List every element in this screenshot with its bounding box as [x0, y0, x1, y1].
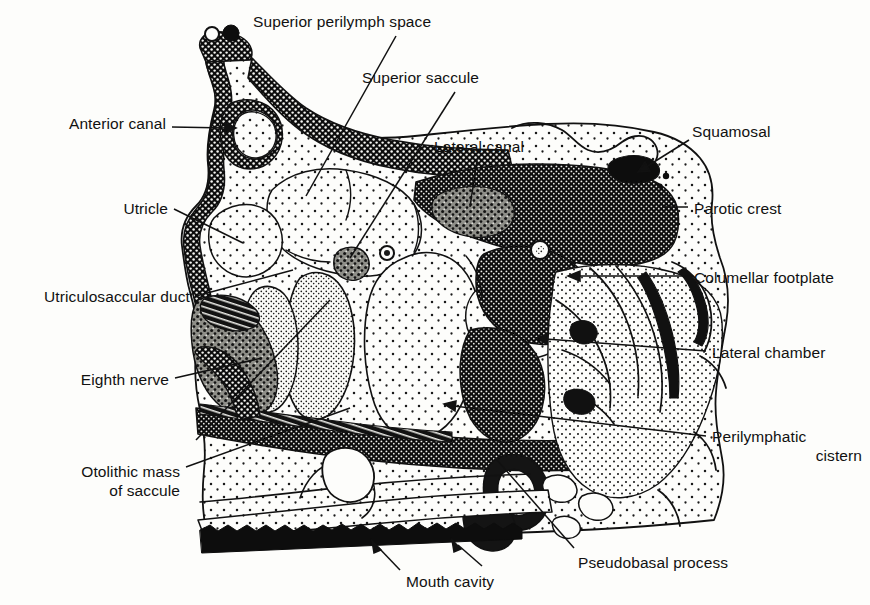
label-perilymphatic-cistern: Perilymphaticcistern — [712, 427, 862, 465]
squamosal-fleck-1 — [663, 173, 669, 179]
label-superior-saccule: Superior saccule — [362, 68, 479, 87]
label-pseudobasal-process: Pseudobasal process — [578, 553, 728, 572]
label-lateral-chamber: Lateral chamber — [712, 343, 826, 362]
squamosal-bone — [608, 156, 660, 184]
squamosal-fleck-2 — [657, 183, 662, 188]
crest-foramen-2-core — [384, 250, 390, 256]
leader-anterior-canal — [172, 127, 228, 128]
label-utriculosaccular-duct: Utriculosaccular duct — [0, 287, 190, 306]
utricle-chamber — [209, 204, 283, 276]
crest-foramen-1-core — [536, 246, 544, 254]
label-superior-perilymph-space: Superior perilymph space — [253, 12, 431, 31]
label-eighth-nerve: Eighth nerve — [0, 370, 169, 389]
label-mouth-cavity: Mouth cavity — [406, 572, 494, 591]
label-anterior-canal: Anterior canal — [0, 114, 166, 133]
label-columellar-footplate: Columellar footplate — [694, 268, 834, 287]
small-ring-icon — [205, 27, 219, 41]
label-utricle: Utricle — [0, 199, 168, 218]
submandibular-ossicle — [322, 448, 374, 502]
anterior-canal-lumen — [234, 112, 276, 158]
figure-canvas: Superior perilymph space Superior saccul… — [0, 0, 870, 605]
solid-dot-icon — [223, 25, 239, 41]
superior-saccule-neck — [334, 247, 370, 280]
label-parotic-crest: Parotic crest — [694, 199, 781, 218]
label-lateral-canal: Lateral canal — [434, 137, 524, 156]
label-squamosal: Squamosal — [692, 122, 770, 141]
label-otolithic-mass-of-saccule: Otolithic mass of saccule — [0, 462, 180, 500]
